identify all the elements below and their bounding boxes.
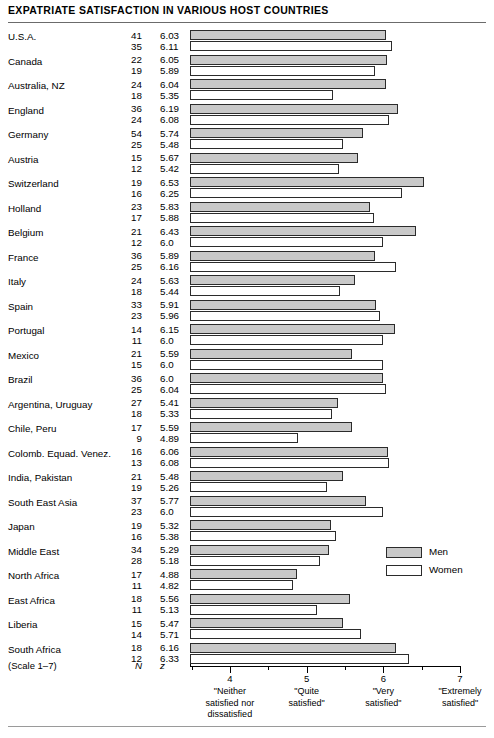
- bar-men: [190, 177, 424, 187]
- sample-size-value: 16: [110, 188, 142, 199]
- country-label: England: [8, 105, 44, 116]
- bar-women: [190, 482, 327, 492]
- bar-women: [190, 66, 375, 76]
- x-tick-minor: [268, 666, 269, 670]
- sample-size-value: 36: [110, 103, 142, 114]
- bar-men: [190, 594, 350, 604]
- bar-men: [190, 128, 363, 138]
- bar-men: [190, 251, 375, 261]
- sample-size-value: 22: [110, 54, 142, 65]
- country-label: France: [8, 252, 39, 263]
- country-label: Canada: [8, 56, 42, 67]
- bar-men: [190, 447, 388, 457]
- bar-women: [190, 115, 389, 125]
- chart-root: EXPATRIATE SATISFACTION IN VARIOUS HOST …: [0, 0, 494, 738]
- bar-women: [190, 654, 409, 664]
- country-label: Australia, NZ: [8, 80, 65, 91]
- x-tick-label: 7: [445, 673, 475, 684]
- x-tick-major: [383, 666, 384, 673]
- x-tick-major: [307, 666, 308, 673]
- country-label: Portugal: [8, 325, 45, 336]
- country-label: Germany: [8, 129, 48, 140]
- bar-men: [190, 471, 343, 481]
- country-label: North Africa: [8, 570, 59, 581]
- sample-size-value: 18: [110, 286, 142, 297]
- x-tick-major: [230, 666, 231, 673]
- bar-men: [190, 398, 338, 408]
- bar-men: [190, 153, 358, 163]
- bar-men: [190, 496, 366, 506]
- sample-size-value: 24: [110, 79, 142, 90]
- legend-swatch-men: [386, 547, 422, 558]
- bar-women: [190, 237, 383, 247]
- sample-size-value: 14: [110, 629, 142, 640]
- bar-women: [190, 556, 320, 566]
- country-label: Italy: [8, 276, 26, 287]
- bar-men: [190, 545, 329, 555]
- bar-women: [190, 311, 380, 321]
- country-label: Argentina, Uruguay: [8, 399, 92, 410]
- title-divider: [8, 22, 486, 23]
- sample-size-value: 18: [110, 593, 142, 604]
- bar-men: [190, 55, 387, 65]
- sample-size-value: 18: [110, 90, 142, 101]
- bar-women: [190, 580, 293, 590]
- country-label: South Africa: [8, 644, 61, 655]
- sample-size-value: 54: [110, 128, 142, 139]
- bar-women: [190, 139, 343, 149]
- bar-women: [190, 262, 396, 272]
- x-tick-minor: [422, 666, 423, 670]
- bar-men: [190, 30, 386, 40]
- bar-men: [190, 300, 376, 310]
- sample-size-value: 19: [110, 177, 142, 188]
- x-tick-label: 6: [368, 673, 398, 684]
- sample-size-value: 11: [110, 604, 142, 615]
- bar-women: [190, 213, 374, 223]
- sample-size-value: 19: [110, 482, 142, 493]
- sample-size-value: 18: [110, 408, 142, 419]
- sample-size-value: 16: [110, 446, 142, 457]
- bar-men: [190, 226, 416, 236]
- country-label: U.S.A.: [8, 31, 36, 42]
- sample-size-value: 21: [110, 348, 142, 359]
- bar-women: [190, 188, 402, 198]
- bar-women: [190, 90, 333, 100]
- country-label: Belgium: [8, 227, 43, 238]
- page-title: EXPATRIATE SATISFACTION IN VARIOUS HOST …: [8, 4, 329, 16]
- sample-size-value: 27: [110, 397, 142, 408]
- bar-women: [190, 458, 389, 468]
- sample-size-value: 36: [110, 373, 142, 384]
- sample-size-value: 36: [110, 250, 142, 261]
- sample-size-value: 17: [110, 569, 142, 580]
- bar-women: [190, 164, 339, 174]
- bar-men: [190, 643, 396, 653]
- bar-men: [190, 104, 398, 114]
- sample-size-value: 19: [110, 65, 142, 76]
- country-label: India, Pakistan: [8, 472, 72, 483]
- sample-size-value: 23: [110, 506, 142, 517]
- country-label: Liberia: [8, 619, 37, 630]
- bar-men: [190, 569, 297, 579]
- sample-size-value: 34: [110, 544, 142, 555]
- sample-size-value: 23: [110, 201, 142, 212]
- x-tick-label: 4: [215, 673, 245, 684]
- bar-women: [190, 409, 332, 419]
- bar-women: [190, 360, 383, 370]
- sample-size-value: 21: [110, 226, 142, 237]
- sample-size-value: 17: [110, 422, 142, 433]
- sample-size-value: 28: [110, 555, 142, 566]
- sample-size-value: 24: [110, 275, 142, 286]
- country-label: East Africa: [8, 595, 55, 606]
- sample-size-value: 12: [110, 163, 142, 174]
- sample-size-value: 41: [110, 30, 142, 41]
- bar-women: [190, 531, 336, 541]
- sample-size-value: 15: [110, 618, 142, 629]
- scale-note: (Scale 1–7): [8, 660, 57, 671]
- bar-men: [190, 79, 386, 89]
- bar-women: [190, 605, 317, 615]
- bar-men: [190, 520, 331, 530]
- sample-size-value: 23: [110, 310, 142, 321]
- bar-men: [190, 618, 343, 628]
- x-tick-label: 5: [292, 673, 322, 684]
- sample-size-value: 17: [110, 212, 142, 223]
